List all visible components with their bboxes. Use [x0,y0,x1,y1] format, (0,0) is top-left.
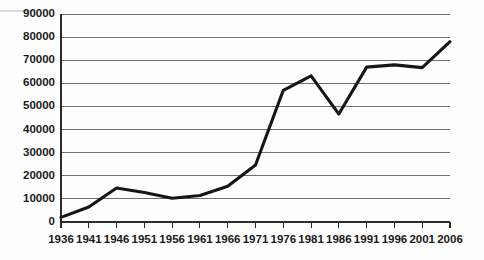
gridlines [61,14,450,199]
y-axis-label-50000: 50000 [23,99,55,111]
y-axis-label-0: 0 [49,215,55,227]
x-axis-label-1991: 1991 [354,233,380,245]
x-axis-label-1946: 1946 [104,233,130,245]
chart-container: 0100002000030000400005000060000700008000… [0,0,484,260]
x-axis-label-1981: 1981 [298,233,324,245]
y-axis-label-80000: 80000 [23,30,55,42]
y-axis-label-70000: 70000 [23,53,55,65]
y-axis-label-10000: 10000 [23,192,55,204]
x-axis-label-1936: 1936 [48,233,74,245]
y-axis-label-30000: 30000 [23,146,55,158]
x-axis-label-1966: 1966 [215,233,241,245]
y-axis-tick-labels: 0100002000030000400005000060000700008000… [23,7,55,227]
x-axis-label-1961: 1961 [187,233,213,245]
x-axis-label-1971: 1971 [243,233,269,245]
y-axis-label-60000: 60000 [23,76,55,88]
line-chart: 0100002000030000400005000060000700008000… [0,0,484,260]
x-axis-tick-marks [61,222,450,228]
x-axis-label-1951: 1951 [132,233,158,245]
y-axis-label-90000: 90000 [23,7,55,19]
x-axis-label-1986: 1986 [326,233,352,245]
x-axis-label-1976: 1976 [270,233,296,245]
x-axis-label-1996: 1996 [382,233,408,245]
y-axis-label-40000: 40000 [23,123,55,135]
x-axis-tick-labels: 1936194119461951195619611966197119761981… [48,233,463,245]
x-axis-label-2006: 2006 [437,233,463,245]
y-axis-label-20000: 20000 [23,169,55,181]
x-axis-label-1941: 1941 [76,233,102,245]
x-axis-label-1956: 1956 [159,233,185,245]
x-axis-label-2001: 2001 [409,233,435,245]
